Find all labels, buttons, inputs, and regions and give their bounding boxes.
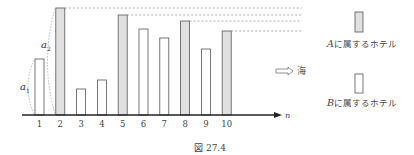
bar-6	[139, 29, 148, 115]
bars-group	[35, 8, 231, 115]
tick-label-8: 8	[177, 119, 193, 129]
tick-label-7: 7	[156, 119, 172, 129]
bar-9	[201, 49, 210, 115]
bar-diagram	[0, 0, 414, 155]
tick-label-3: 3	[73, 119, 89, 129]
tick-label-2: 2	[52, 119, 68, 129]
sea-label: 海	[297, 66, 306, 76]
bar-5	[118, 15, 127, 115]
bar-10	[222, 31, 231, 115]
legend-a-swatch	[355, 12, 363, 32]
a2-label: a2	[41, 40, 51, 54]
a1-label: a1	[20, 82, 30, 96]
tick-label-6: 6	[136, 119, 152, 129]
bar-7	[160, 38, 169, 115]
tick-label-9: 9	[198, 119, 214, 129]
legend-b-swatch	[355, 74, 363, 93]
sea-arrow-icon	[276, 67, 293, 75]
bar-8	[181, 21, 190, 115]
bar-2	[56, 8, 65, 115]
tick-label-5: 5	[115, 119, 131, 129]
figure-caption: 図 27.4	[180, 141, 240, 154]
bar-3	[77, 89, 86, 115]
tick-label-4: 4	[94, 119, 110, 129]
bar-1	[35, 59, 44, 115]
tick-label-10: 10	[219, 119, 235, 129]
legend-b-label: Bに属するホテル	[327, 96, 397, 108]
axis-label-n: n	[285, 111, 290, 121]
axis-arrow-icon	[274, 112, 282, 118]
legend-a-label: Aに属するホテル	[327, 37, 397, 49]
bar-4	[97, 80, 106, 115]
a2-brace	[48, 9, 56, 114]
tick-label-1: 1	[32, 119, 48, 129]
